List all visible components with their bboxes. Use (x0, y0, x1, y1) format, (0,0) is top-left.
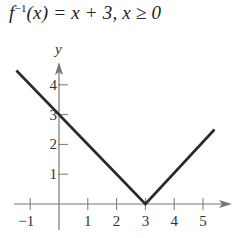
y-tick-label: 4 (50, 77, 58, 93)
x-tick-label: −1 (18, 213, 34, 229)
x-tick-label: 5 (199, 213, 207, 229)
y-tick-label: 1 (50, 166, 58, 182)
y-axis-label: y (53, 41, 62, 57)
x-tick-label: 4 (170, 213, 178, 229)
chart-plot-area: y−1123451234 (0, 0, 237, 238)
y-tick-label: 2 (50, 136, 58, 152)
x-tick-label: 2 (113, 213, 121, 229)
x-tick-label: 3 (142, 213, 150, 229)
function-line (16, 71, 214, 205)
x-tick-label: 1 (84, 213, 92, 229)
